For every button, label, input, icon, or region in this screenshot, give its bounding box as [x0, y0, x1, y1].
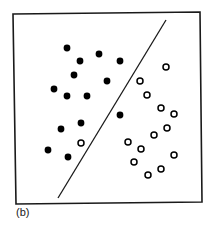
- filled-data-point: [77, 58, 84, 65]
- filled-data-point: [51, 86, 58, 93]
- filled-data-point: [78, 120, 85, 127]
- filled-data-point: [117, 112, 124, 119]
- open-data-point: [125, 139, 131, 145]
- filled-data-point: [58, 126, 65, 133]
- filled-data-point: [65, 154, 72, 161]
- filled-data-point: [96, 51, 103, 58]
- open-data-point: [78, 140, 84, 146]
- filled-data-point: [84, 93, 91, 100]
- open-data-point: [158, 166, 164, 172]
- open-data-point: [131, 159, 137, 165]
- open-data-point: [137, 78, 143, 84]
- open-data-point: [144, 92, 150, 98]
- filled-data-point: [117, 58, 124, 65]
- filled-data-point: [71, 72, 78, 79]
- open-data-point: [164, 125, 170, 131]
- filled-data-point: [64, 93, 71, 100]
- filled-data-point: [45, 147, 52, 154]
- open-data-point: [138, 146, 144, 152]
- filled-data-point: [64, 45, 71, 52]
- open-data-point: [163, 64, 169, 70]
- decision-boundary-line: [58, 20, 166, 198]
- open-class-points: [78, 64, 177, 178]
- open-data-point: [145, 172, 151, 178]
- open-data-point: [151, 132, 157, 138]
- open-data-point: [158, 105, 164, 111]
- open-data-point: [171, 111, 177, 117]
- plot-frame: [13, 12, 202, 204]
- scatter-figure: [0, 0, 210, 230]
- filled-data-point: [104, 78, 111, 85]
- panel-label: (b): [16, 206, 29, 218]
- open-data-point: [171, 152, 177, 158]
